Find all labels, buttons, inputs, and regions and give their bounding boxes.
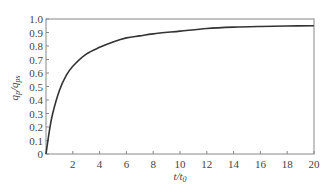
line-chart: 00.10.20.30.40.50.60.70.80.91.0 24681012… — [0, 0, 331, 189]
x-axis-label: t/t0 — [173, 170, 186, 184]
x-tick-label: 18 — [282, 158, 294, 170]
y-tick-label: 0.1 — [29, 135, 43, 147]
y-tick-label: 0.6 — [29, 67, 43, 79]
y-tick-label: 0.3 — [29, 108, 43, 120]
x-tick-label: 12 — [201, 158, 212, 170]
x-tick-label: 2 — [70, 158, 76, 170]
y-tick-label: 1.0 — [29, 13, 43, 25]
x-tick-label: 20 — [309, 158, 321, 170]
x-tick-label: 8 — [150, 158, 156, 170]
data-series-line — [46, 26, 314, 154]
x-tick-label: 16 — [255, 158, 267, 170]
y-tick-label: 0.4 — [29, 94, 43, 106]
y-tick-label: 0.5 — [29, 81, 43, 93]
y-tick-label: 0.2 — [29, 121, 43, 133]
y-tick-label: 0 — [38, 148, 44, 160]
y-axis-label: qp/qps — [8, 75, 22, 100]
y-tick-label: 0.9 — [29, 27, 43, 39]
x-tick-label: 10 — [175, 158, 187, 170]
x-tick-label: 4 — [97, 158, 103, 170]
x-tick-label: 6 — [124, 158, 130, 170]
plot-frame — [46, 19, 314, 154]
y-tick-label: 0.7 — [29, 54, 43, 66]
x-tick-label: 14 — [228, 158, 240, 170]
y-tick-label: 0.8 — [29, 40, 43, 52]
